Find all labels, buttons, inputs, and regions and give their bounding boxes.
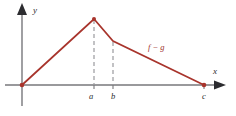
x-axis-arrow-icon [214, 81, 226, 90]
x-axis-label: x [212, 66, 217, 76]
curve-annotation-label: f − g [148, 42, 165, 52]
y-axis-arrow-icon [17, 3, 27, 15]
peak-marker [92, 17, 96, 21]
y-axis-label: y [32, 5, 37, 15]
endpoint-marker [202, 83, 207, 88]
tick-label-b: b [111, 91, 115, 101]
graph-figure: y x a b c f − g [0, 0, 236, 116]
tick-label-a: a [89, 91, 93, 101]
tick-label-c: c [202, 91, 206, 101]
origin-marker [20, 83, 25, 88]
graph-svg: y x a b c f − g [0, 0, 236, 116]
